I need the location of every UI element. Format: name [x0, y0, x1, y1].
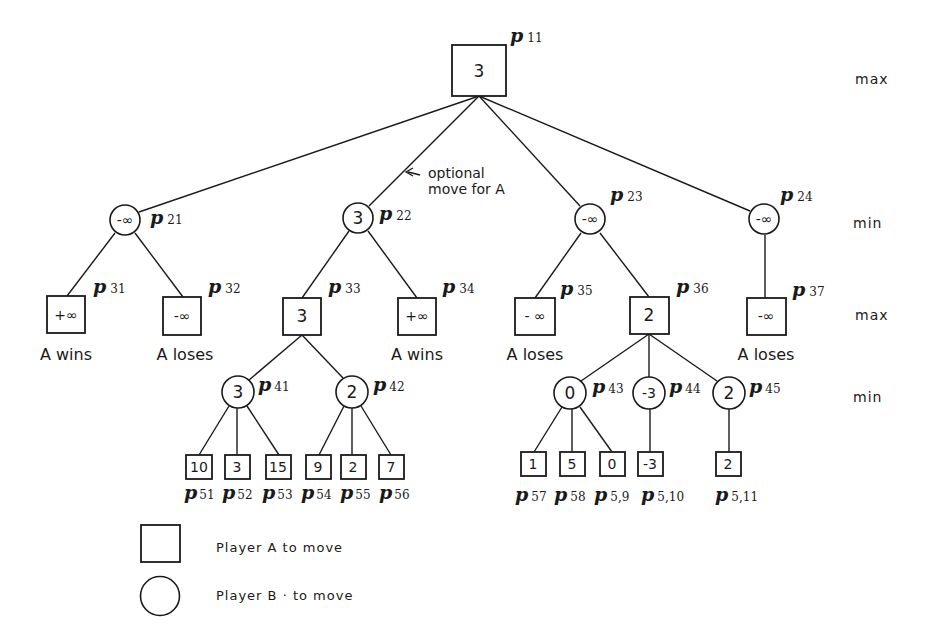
node-value: 3 [233, 382, 244, 402]
position-label: p23 [610, 183, 643, 205]
legend-item-player-a: Player A to move [216, 540, 343, 555]
outcome-label: A loses [738, 345, 795, 364]
node-value: 3 [233, 459, 242, 475]
position-label: p53 [262, 481, 293, 503]
node-value: 2 [644, 305, 655, 325]
position-label: p58 [554, 483, 586, 505]
node-p11: 3 p11 [452, 24, 543, 96]
position-label: p55 [340, 481, 371, 503]
node-p511: 2 p5,11 [715, 452, 758, 505]
node-p22: 3 p22 [343, 202, 412, 233]
position-label: p52 [222, 481, 253, 503]
annotation-text-line1: optional [428, 165, 485, 181]
legend-item-player-b: Player B · to move [216, 588, 353, 603]
node-value: 0 [608, 456, 617, 472]
legend-square-icon [141, 525, 180, 562]
node-value: 3 [474, 61, 485, 81]
position-label: p33 [328, 275, 361, 297]
node-p55: 2 p55 [340, 455, 371, 503]
legend: Player A to move Player B · to move [141, 525, 354, 616]
position-label: p42 [373, 373, 405, 395]
node-value: -∞ [758, 308, 775, 324]
edge-p23-p35 [535, 233, 581, 298]
node-value: +∞ [405, 308, 428, 324]
node-p43: 0 p43 [554, 375, 624, 409]
legend-circle-icon [141, 577, 180, 616]
position-label: p31 [93, 275, 126, 297]
node-value: 10 [190, 459, 208, 475]
node-p54: 9 p54 [301, 455, 332, 503]
node-value: -∞ [582, 211, 599, 227]
node-value: -∞ [756, 211, 773, 227]
position-label: p41 [258, 373, 290, 395]
node-p510: -3 p5,10 [638, 452, 684, 505]
node-p59: 0 p5,9 [594, 452, 629, 505]
position-label: p21 [150, 206, 183, 228]
edge-p21-p32 [135, 233, 183, 297]
node-value: 2 [724, 383, 735, 403]
position-label: p36 [676, 275, 709, 297]
edge-p41-p53 [247, 406, 279, 455]
position-label: p22 [379, 202, 412, 224]
node-p41: 3 p41 [222, 373, 290, 408]
position-label: p57 [515, 483, 547, 505]
node-value: -∞ [174, 308, 191, 324]
position-label: p34 [442, 275, 475, 297]
outcome-label: A loses [157, 345, 214, 364]
node-value: 2 [724, 456, 733, 472]
node-value: 5 [568, 456, 577, 472]
position-label: p32 [208, 275, 241, 297]
edge-p41-p51 [199, 406, 229, 455]
node-value: -3 [643, 456, 657, 472]
position-label: p5,9 [594, 483, 629, 505]
position-label: p43 [592, 375, 624, 397]
edge-p23-p36 [600, 233, 649, 297]
node-p36: 2 p36 [630, 275, 709, 334]
node-value: 3 [353, 208, 364, 228]
level-label-min: min [853, 215, 882, 231]
node-p51: 10 p51 [184, 455, 215, 503]
position-label: p24 [780, 183, 813, 205]
node-value: 2 [347, 382, 358, 402]
node-p33: 3 p33 [283, 275, 361, 335]
game-tree-diagram: 3 p11 -∞ p21 3 p22 -∞ p23 -∞ p24 +∞ p31 … [0, 0, 932, 644]
node-value: 9 [314, 459, 323, 475]
position-label: p56 [379, 481, 410, 503]
position-label: p35 [560, 277, 593, 299]
level-label-max: max [855, 71, 889, 87]
position-label: p11 [510, 24, 543, 46]
position-label: p5,11 [715, 483, 758, 505]
node-p57: 1 p57 [515, 452, 547, 505]
node-value: -3 [642, 385, 656, 401]
position-label: p54 [301, 481, 332, 503]
annotation-text-line2: move for A [428, 181, 505, 197]
node-p56: 7 p56 [379, 455, 410, 503]
edge-p33-p41 [249, 335, 302, 380]
node-p24: -∞ p24 [749, 183, 813, 234]
edge-p22-p33 [302, 231, 349, 298]
edge-p21-p31 [67, 233, 115, 296]
node-p31: +∞ p31 A wins [40, 275, 126, 364]
node-p37: -∞ p37 A loses [738, 278, 825, 364]
position-label: p45 [749, 375, 781, 397]
node-value: 3 [297, 306, 308, 326]
position-label: p37 [792, 278, 825, 300]
edge-p43-p57 [534, 407, 562, 452]
node-value: 1 [529, 456, 538, 472]
node-p44: -3 p44 [633, 375, 701, 409]
node-value: -∞ [117, 212, 134, 228]
node-p52: 3 p52 [222, 455, 253, 503]
node-p53: 15 p53 [262, 455, 293, 503]
position-label: p44 [669, 375, 701, 397]
edge-p22-p34 [368, 231, 417, 298]
node-p42: 2 p42 [336, 373, 405, 408]
edge-p36-p45 [649, 334, 717, 381]
node-p34: +∞ p34 A wins [391, 275, 475, 364]
position-label: p5,10 [641, 483, 684, 505]
level-label-max: max [855, 307, 889, 323]
node-p23: -∞ p23 [575, 183, 643, 234]
edge-p43-p59 [580, 407, 612, 452]
node-value: 2 [349, 459, 358, 475]
node-p45: 2 p45 [713, 375, 781, 409]
edge-p42-p56 [361, 406, 391, 455]
